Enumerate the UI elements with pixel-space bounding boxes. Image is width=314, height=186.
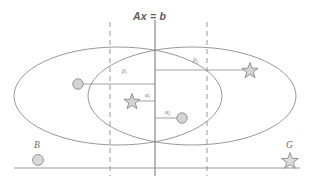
marker-circle-legend-b — [33, 155, 44, 166]
beta-i-subscript: i — [126, 70, 127, 75]
beta-i-label: βi — [122, 68, 127, 75]
legend-label-g: G — [286, 141, 293, 151]
marker-star-inner — [124, 94, 140, 109]
diagram-canvas: Ax = b βi βj αi αj B G — [0, 0, 314, 186]
marker-star-right — [242, 63, 258, 78]
marker-circle-inner — [177, 113, 187, 123]
marker-circle-left — [73, 79, 83, 89]
marker-star-legend-g — [282, 153, 299, 169]
beta-j-subscript: j — [197, 59, 198, 64]
diagram-svg — [0, 0, 314, 186]
hyperplane-label: Ax = b — [133, 11, 166, 22]
alpha-j-subscript: j — [169, 111, 170, 116]
legend-label-b: B — [34, 141, 40, 151]
alpha-i-label: αi — [145, 92, 150, 99]
beta-j-label: βj — [193, 57, 198, 64]
alpha-i-subscript: i — [149, 94, 150, 99]
alpha-j-label: αj — [165, 109, 170, 116]
